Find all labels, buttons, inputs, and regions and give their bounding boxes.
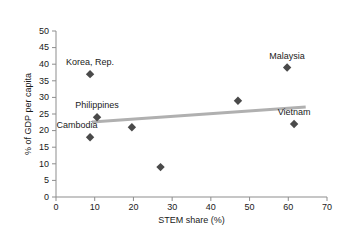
y-tick-label: 0	[44, 192, 49, 202]
x-tick-label: 0	[53, 202, 58, 212]
y-tick-label: 45	[39, 42, 49, 52]
trend-line	[92, 107, 306, 122]
data-markers	[86, 63, 298, 171]
data-point-marker	[290, 120, 298, 128]
data-point-label: Korea, Rep.	[66, 57, 114, 67]
x-tick-label: 20	[128, 202, 138, 212]
y-tick-label: 30	[39, 92, 49, 102]
data-point-marker	[86, 133, 94, 141]
y-tick-label: 5	[44, 175, 49, 185]
x-tick-label: 60	[283, 202, 293, 212]
x-tick-label: 50	[245, 202, 255, 212]
data-point-label: Philippines	[75, 100, 119, 110]
data-point-marker	[283, 63, 291, 71]
data-point-label: Malaysia	[269, 51, 305, 61]
y-tick-label: 35	[39, 76, 49, 86]
y-tick-label: 15	[39, 142, 49, 152]
y-tick-label: 25	[39, 109, 49, 119]
y-tick-label: 50	[39, 26, 49, 36]
y-axis-title: % of GDP per capita	[23, 73, 33, 155]
data-point-marker	[156, 163, 164, 171]
y-axis-ticks: 05101520253035404550	[39, 26, 56, 202]
data-point-label: Cambodia	[57, 120, 98, 130]
y-tick-label: 10	[39, 159, 49, 169]
x-axis-ticks: 010203040506070	[53, 197, 332, 212]
x-tick-label: 10	[90, 202, 100, 212]
x-axis-title: STEM share (%)	[158, 215, 225, 225]
y-tick-label: 20	[39, 125, 49, 135]
x-tick-label: 70	[322, 202, 332, 212]
data-point-marker	[128, 123, 136, 131]
y-tick-label: 40	[39, 59, 49, 69]
data-point-label: Vietnam	[278, 107, 311, 117]
scatter-chart: 05101520253035404550 010203040506070 Cam…	[0, 0, 351, 247]
data-point-marker	[86, 70, 94, 78]
plot-area: 05101520253035404550 010203040506070 Cam…	[0, 0, 351, 247]
data-point-marker	[234, 97, 242, 105]
x-tick-label: 40	[206, 202, 216, 212]
x-tick-label: 30	[167, 202, 177, 212]
